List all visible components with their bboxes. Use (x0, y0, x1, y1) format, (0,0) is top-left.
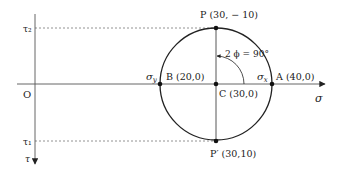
sigma-axis-label: σ (315, 92, 323, 105)
sigma-x-label: σx (257, 71, 268, 84)
point-b-label: B (20,0) (166, 71, 205, 82)
point-p-label: P (30, − 10) (200, 9, 258, 20)
point-p-prime (214, 139, 219, 144)
angle-label: 2 ϕ = 90° (225, 49, 269, 59)
point-a-label: A (40,0) (275, 71, 314, 82)
point-c (214, 82, 219, 87)
point-p-prime-label: P′ (30,10) (210, 148, 256, 159)
sigma-y-label: σy (146, 71, 158, 84)
tau-axis-label: τ (25, 154, 31, 164)
tau1-label: τ₁ (23, 137, 32, 147)
mohr-circle-diagram: τ₂ τ₁ τ O σ P (30, − 10) P′ (30,10) C (3… (0, 0, 346, 172)
point-c-label: C (30,0) (219, 88, 258, 99)
angle-arc-icon (217, 56, 244, 84)
point-p (214, 26, 219, 31)
tau2-label: τ₂ (23, 24, 32, 34)
point-a (270, 82, 275, 87)
point-b (158, 82, 163, 87)
origin-label: O (23, 89, 31, 100)
